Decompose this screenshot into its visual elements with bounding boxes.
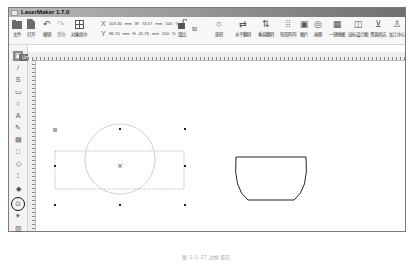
vertical-ruler (28, 60, 36, 231)
width-input[interactable]: 74.57 (142, 19, 152, 29)
tool-sidebar: ▣ / S ▭ ○ A ✎ ▤ □ ◇ ⌶ ◆ ⊙ ▾ ▥ (9, 45, 28, 231)
pen-tool-icon[interactable]: ✎ (13, 123, 23, 133)
center-cross-icon: × (117, 162, 123, 170)
app-window: LaserMaker 1.7.0 文件 打开 ↶ 撤销 ↷ 重做 对象居中 X … (8, 7, 406, 232)
window-title: LaserMaker 1.7.0 (21, 8, 69, 17)
center-object-icon (74, 19, 84, 29)
align-tool-icon[interactable]: ⌶ (13, 171, 23, 181)
selected-circle[interactable] (85, 124, 155, 194)
one-click-icon: ▦ (332, 19, 342, 29)
flip-vertical-button[interactable]: ⇅ 垂直翻转 (258, 19, 274, 37)
layer-tool-icon[interactable]: ▥ (13, 224, 23, 234)
text-tool-icon[interactable]: A (13, 111, 23, 121)
app-logo-icon (11, 10, 18, 16)
group-marker-icon (53, 128, 57, 132)
image-icon: ▣ (299, 19, 309, 29)
height-percent-input[interactable]: 100 (162, 29, 169, 39)
undo-icon: ↶ (42, 19, 52, 29)
fill-tool-icon[interactable]: ◆ (13, 184, 23, 194)
flip-horizontal-icon: ⇄ (238, 19, 248, 29)
height-input[interactable]: 41.76 (139, 29, 149, 39)
store-button[interactable]: ⊻ 资源商店 (370, 19, 386, 37)
open-button[interactable]: 打开 (26, 19, 36, 37)
array-icon: ⁞⁞ (283, 19, 293, 29)
image-button[interactable]: ▣ 图片 (299, 19, 309, 37)
y-position-input[interactable]: 86.74 (109, 29, 119, 39)
horizontal-ruler (28, 52, 405, 61)
weld-tool-icon[interactable]: ⊙ (11, 197, 25, 211)
lock-icon (177, 19, 187, 29)
center-object-button[interactable]: 对象居中 (71, 19, 87, 37)
selection-box (55, 151, 184, 189)
rectangle-tool-icon[interactable]: ▭ (13, 87, 23, 97)
undo-button[interactable]: ↶ 撤销 (42, 19, 52, 37)
line-tool-icon[interactable]: / (13, 63, 23, 73)
bowl-shape[interactable] (236, 157, 307, 200)
node-tool-icon[interactable]: ▾ (13, 211, 23, 221)
rotate-button[interactable]: ○ 旋转 (214, 19, 224, 37)
polygon-tool-icon[interactable]: ◇ (13, 159, 23, 169)
folder-icon (12, 19, 22, 29)
lock-ratio-button[interactable]: 锁比 (177, 19, 187, 37)
open-file-icon (26, 19, 36, 29)
title-bar: LaserMaker 1.7.0 (9, 8, 405, 17)
redo-button[interactable]: ↷ 重做 (56, 19, 66, 37)
rotate-angle-input[interactable]: 90 (192, 25, 197, 32)
gallery-button[interactable]: ◎ 画册 (313, 19, 323, 37)
file-button[interactable]: 文件 (12, 19, 22, 37)
redo-icon: ↷ (56, 19, 66, 29)
rotate-icon: ○ (214, 19, 224, 29)
store-icon: ⊻ (373, 19, 383, 29)
figure-caption: 图 1-1-27 边框弧形 (0, 253, 413, 260)
image-tool-icon[interactable]: ▤ (13, 135, 23, 145)
process-button[interactable]: ♙ 加工中心 (389, 19, 405, 37)
shape-tool-icon[interactable]: □ (13, 147, 23, 157)
design-button[interactable]: ◫ 鼠标设计图 (348, 19, 368, 37)
width-percent-input[interactable]: 100 (165, 19, 172, 29)
one-click-button[interactable]: ▦ 一键做图 (329, 19, 345, 37)
main-toolbar: 文件 打开 ↶ 撤销 ↷ 重做 对象居中 X 103.30 mm W 74.57… (9, 17, 405, 45)
flip-vertical-icon: ⇅ (261, 19, 271, 29)
x-position-input[interactable]: 103.30 (109, 19, 122, 29)
drawing-canvas[interactable]: × (36, 61, 405, 231)
process-icon: ♙ (392, 19, 402, 29)
array-button[interactable]: ⁞⁞ 矩形阵列 (280, 19, 296, 37)
curve-tool-icon[interactable]: S (13, 75, 23, 85)
gallery-icon: ◎ (313, 19, 323, 29)
ellipse-tool-icon[interactable]: ○ (13, 99, 23, 109)
coordinates-panel: X 103.30 mm W 74.57 mm 100 % Y 86.74 mm … (101, 19, 179, 39)
design-icon: ◫ (353, 19, 363, 29)
flip-horizontal-button[interactable]: ⇄ 水平翻转 (235, 19, 251, 37)
document-tabs: Untitled.lzr × (19, 45, 52, 52)
